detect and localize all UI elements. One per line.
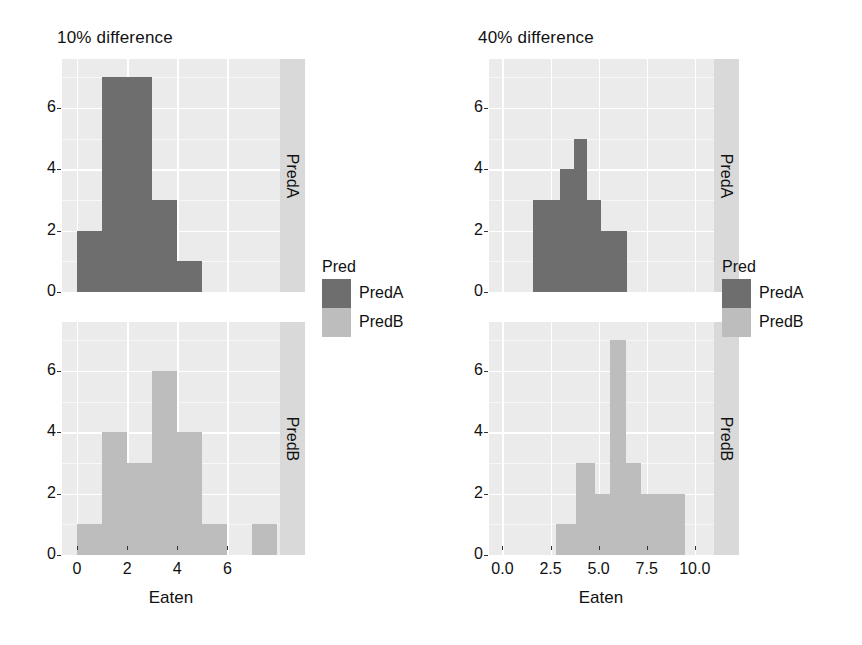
- facet-strip-label: PredA: [284, 153, 302, 197]
- y-axis-tick-mark: [57, 169, 61, 170]
- gridline-y-minor: [489, 77, 714, 78]
- y-axis-tick-label: 0: [47, 282, 56, 300]
- x-axis-tick-mark: [227, 546, 228, 550]
- x-axis-tick-mark: [647, 546, 648, 550]
- y-axis-tick-mark: [484, 169, 488, 170]
- facet-strip-predb: PredB: [280, 322, 305, 555]
- histogram-bar: [102, 77, 127, 292]
- gridline-y-minor: [62, 139, 280, 140]
- gridline-y: [489, 169, 714, 170]
- gridline-x: [502, 59, 503, 292]
- histogram-bar: [77, 524, 102, 555]
- histogram-bar: [595, 494, 610, 555]
- figure-40-percent: 40% differencePredA0246PredB02460.02.55.…: [431, 0, 862, 645]
- legend-key-predb[interactable]: [322, 308, 351, 337]
- gridline-y: [489, 432, 714, 433]
- y-axis-tick-label: 2: [474, 221, 483, 239]
- y-axis-tick-label: 4: [47, 159, 56, 177]
- y-axis-tick-mark: [484, 371, 488, 372]
- histogram-bar: [601, 231, 614, 292]
- histogram-bar: [177, 432, 202, 555]
- legend-label-preda: PredA: [759, 284, 803, 302]
- y-axis-tick-label: 2: [474, 484, 483, 502]
- gridline-y: [62, 108, 280, 109]
- histogram-bar: [102, 432, 127, 555]
- gridline-y: [62, 169, 280, 170]
- y-axis-tick-mark: [484, 494, 488, 495]
- facet-strip-label: PredB: [718, 416, 736, 460]
- histogram-bar: [127, 463, 152, 555]
- plot-panel-preda: [489, 59, 714, 292]
- x-axis-tick-label: 6: [187, 560, 267, 578]
- histogram-bar: [556, 524, 575, 555]
- y-axis-tick-mark: [57, 555, 61, 556]
- legend-label-preda: PredA: [359, 284, 403, 302]
- y-axis-tick-mark: [484, 108, 488, 109]
- gridline-y-minor: [62, 340, 280, 341]
- legend-key-preda[interactable]: [722, 279, 751, 308]
- y-axis-tick-mark: [484, 432, 488, 433]
- y-axis-tick-label: 6: [47, 98, 56, 116]
- histogram-bar: [574, 139, 587, 292]
- gridline-y-minor: [489, 340, 714, 341]
- plot-panel-predb: [62, 322, 280, 555]
- plot-panel-predb: [489, 322, 714, 555]
- x-axis-tick-mark: [695, 546, 696, 550]
- legend-title: Pred: [722, 258, 756, 276]
- gridline-x: [695, 322, 696, 555]
- histogram-bar: [252, 524, 277, 555]
- x-axis-tick-mark: [599, 546, 600, 550]
- histogram-bar: [177, 261, 202, 292]
- histogram-bar: [152, 371, 177, 555]
- x-axis-tick-mark: [551, 546, 552, 550]
- histogram-bar: [560, 169, 573, 292]
- y-axis-tick-mark: [57, 494, 61, 495]
- gridline-x: [227, 59, 228, 292]
- histogram-bar: [202, 524, 227, 555]
- gridline-y-minor: [489, 200, 714, 201]
- facet-strip-label: PredA: [718, 153, 736, 197]
- gridline-x: [502, 322, 503, 555]
- y-axis-tick-mark: [484, 231, 488, 232]
- chart-title: 10% difference: [57, 28, 173, 48]
- y-axis-tick-mark: [57, 108, 61, 109]
- facet-strip-predb: PredB: [714, 322, 739, 555]
- histogram-bar: [127, 77, 152, 292]
- gridline-y-minor: [62, 77, 280, 78]
- gridline-y-minor: [489, 139, 714, 140]
- gridline-y-minor: [489, 463, 714, 464]
- y-axis-tick-mark: [57, 292, 61, 293]
- histogram-bar: [641, 494, 660, 555]
- gridline-x: [551, 322, 552, 555]
- y-axis-tick-label: 4: [474, 422, 483, 440]
- gridline-y: [489, 371, 714, 372]
- y-axis-tick-label: 6: [47, 361, 56, 379]
- facet-strip-preda: PredA: [280, 59, 305, 292]
- gridline-x: [77, 322, 78, 555]
- y-axis-tick-mark: [57, 231, 61, 232]
- histogram-bar: [547, 200, 560, 292]
- x-axis-tick-mark: [502, 546, 503, 550]
- histogram-bar: [587, 200, 600, 292]
- y-axis-tick-label: 6: [474, 361, 483, 379]
- histogram-bar: [614, 231, 627, 292]
- legend-label-predb: PredB: [759, 313, 803, 331]
- histogram-bar: [576, 463, 595, 555]
- histogram-bar: [660, 494, 685, 555]
- histogram-bar: [77, 231, 102, 292]
- y-axis-tick-mark: [57, 432, 61, 433]
- x-axis-title: Eaten: [541, 588, 661, 608]
- x-axis-tick-mark: [77, 546, 78, 550]
- legend-key-preda[interactable]: [322, 279, 351, 308]
- x-axis-title: Eaten: [111, 588, 231, 608]
- legend-key-predb[interactable]: [722, 308, 751, 337]
- histogram-bar: [610, 340, 625, 555]
- legend-title: Pred: [322, 258, 356, 276]
- gridline-x: [695, 59, 696, 292]
- y-axis-tick-label: 4: [47, 422, 56, 440]
- x-axis-tick-mark: [127, 546, 128, 550]
- y-axis-tick-label: 4: [474, 159, 483, 177]
- gridline-x: [177, 59, 178, 292]
- gridline-y: [489, 108, 714, 109]
- y-axis-tick-label: 6: [474, 98, 483, 116]
